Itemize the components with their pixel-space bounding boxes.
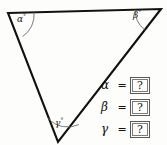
beta-degree-mark: ° — [138, 8, 141, 15]
angle-equation-list: α = ? β = ? γ = ? — [101, 74, 167, 140]
equals-sign-beta: = — [114, 101, 130, 114]
equals-sign-gamma: = — [114, 123, 130, 136]
equation-row-alpha: α = ? — [101, 74, 167, 96]
equation-row-beta: β = ? — [101, 96, 167, 118]
alpha-degree-mark: ° — [23, 12, 26, 19]
answer-box-alpha[interactable]: ? — [130, 77, 150, 94]
equation-symbol-gamma: γ — [101, 122, 114, 136]
equals-sign-alpha: = — [114, 79, 130, 92]
equation-row-gamma: γ = ? — [101, 118, 167, 140]
gamma-angle-label: γ° — [55, 117, 63, 128]
equation-symbol-beta: β — [101, 100, 114, 114]
equation-symbol-alpha: α — [101, 78, 114, 92]
answer-box-gamma[interactable]: ? — [130, 121, 150, 138]
gamma-degree-mark: ° — [60, 116, 63, 123]
alpha-angle-label: α° — [17, 13, 26, 24]
beta-angle-label: β° — [133, 9, 141, 20]
answer-box-beta[interactable]: ? — [130, 99, 150, 116]
triangle-angle-worksheet: α° β° γ° α = ? β = ? γ = ? — [0, 0, 167, 145]
